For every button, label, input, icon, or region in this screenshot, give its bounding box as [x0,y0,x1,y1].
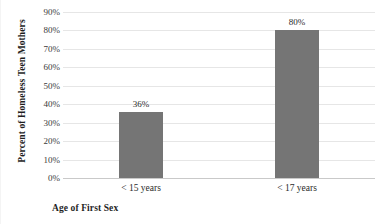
y-axis-tick-label: 80% [18,26,60,35]
axis-baseline [63,178,375,179]
gridline [63,160,375,161]
bar-chart: Percent of Homeless Teen Mothers 90%80%7… [0,0,382,224]
y-axis-tick-label: 50% [18,82,60,91]
y-axis-tick-label: 10% [18,156,60,165]
bar [119,112,163,178]
y-axis-tick-label: 90% [18,8,60,17]
y-axis-tick-labels: 90%80%70%60%50%40%30%20%10%0% [18,6,60,184]
bar-value-label: 36% [111,99,171,109]
gridline [63,141,375,142]
x-axis-category-label: < 15 years [96,182,186,194]
y-axis-tick-label: 30% [18,119,60,128]
y-axis-tick-label: 40% [18,100,60,109]
x-axis-title: Age of First Sex [52,203,118,213]
y-axis-tick-label: 0% [18,174,60,183]
plot-area: 36%80% [63,12,375,178]
bar [275,30,319,178]
gridline [63,123,375,124]
gridline [63,104,375,105]
x-axis-category-labels: < 15 years< 17 years [63,182,375,198]
gridline [63,12,375,13]
y-axis-tick-label: 60% [18,63,60,72]
scan-edge-artifact [0,0,1,224]
gridline [63,67,375,68]
gridline [63,49,375,50]
x-axis-category-label: < 17 years [252,182,342,194]
gridline [63,30,375,31]
y-axis-tick-label: 70% [18,45,60,54]
gridline [63,86,375,87]
y-axis-tick-label: 20% [18,137,60,146]
bar-value-label: 80% [267,17,327,27]
